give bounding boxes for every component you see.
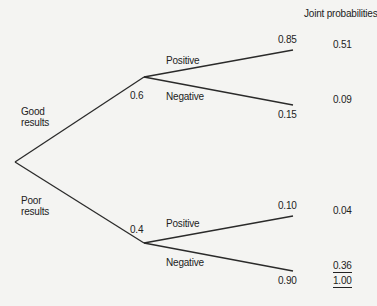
poor-results-prob: 0.4 — [130, 224, 143, 235]
good-negative-prob: 0.15 — [278, 109, 297, 120]
good-negative-label: Negative — [166, 91, 204, 102]
poor-negative-label: Negative — [166, 257, 204, 268]
joint-probabilities-title: Joint probabilities — [304, 8, 377, 19]
poor-negative-prob: 0.90 — [278, 275, 297, 286]
poor-positive-label: Positive — [166, 218, 199, 229]
good-results-prob: 0.6 — [130, 90, 143, 101]
good-results-label: Good results — [21, 106, 49, 128]
good-positive-prob: 0.85 — [278, 34, 297, 45]
poor-results-label: Poor results — [21, 195, 49, 217]
good-negative-joint: 0.09 — [333, 94, 352, 105]
poor-negative-joint: 0.36 — [333, 260, 352, 273]
poor-positive-joint: 0.04 — [333, 205, 352, 216]
good-positive-label: Positive — [166, 55, 199, 66]
joint-total: 1.00 — [333, 275, 352, 288]
good-positive-joint: 0.51 — [333, 39, 352, 50]
poor-positive-prob: 0.10 — [278, 200, 297, 211]
